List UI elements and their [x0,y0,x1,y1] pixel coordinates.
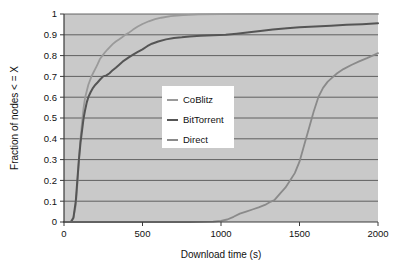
chart-figure: 0500100015002000 00.10.20.30.40.50.60.70… [0,0,409,266]
y-tick-label: 0.4 [44,133,57,144]
y-tick-label: 0.2 [44,175,57,186]
y-tick-group: 00.10.20.30.40.50.60.70.80.91 [44,8,64,227]
y-tick-label: 0 [52,216,57,227]
cdf-line-chart: 0500100015002000 00.10.20.30.40.50.60.70… [0,0,409,266]
x-tick-label: 1500 [289,228,310,239]
y-tick-label: 0.8 [44,50,57,61]
x-tick-label: 2000 [367,228,388,239]
x-tick-group: 0500100015002000 [61,222,388,239]
y-tick-label: 0.6 [44,92,57,103]
y-axis-title: Fraction of nodes < = X [9,66,20,170]
y-tick-label: 0.1 [44,196,57,207]
y-tick-label: 0.3 [44,154,57,165]
chart-legend: CoBlitzBitTorrentDirect [162,86,234,148]
y-tick-label: 1 [52,8,57,19]
y-tick-label: 0.9 [44,29,57,40]
legend-label-coblitz: CoBlitz [183,94,213,105]
x-tick-label: 500 [135,228,151,239]
x-axis-title: Download time (s) [181,249,262,260]
legend-label-bittorrent: BitTorrent [183,114,224,125]
y-tick-label: 0.7 [44,71,57,82]
x-tick-label: 0 [61,228,66,239]
x-tick-label: 1000 [210,228,231,239]
y-tick-label: 0.5 [44,112,57,123]
legend-label-direct: Direct [183,134,208,145]
